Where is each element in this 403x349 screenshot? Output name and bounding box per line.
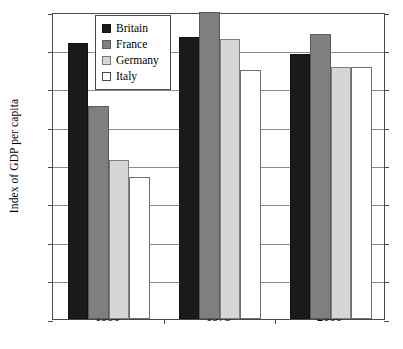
bar-germany-2000	[331, 67, 352, 320]
bar-britain-2000	[290, 54, 311, 319]
legend-item-britain: Britain	[102, 20, 165, 36]
x-group-separator	[164, 319, 165, 324]
bar-italy-2000	[351, 67, 372, 320]
y-tick-mark	[48, 52, 53, 53]
legend-item-germany: Germany	[102, 52, 165, 68]
y-tick-mark-right	[384, 52, 389, 53]
bar-germany-1973	[220, 39, 241, 319]
bar-italy-1973	[240, 70, 261, 319]
y-tick-mark	[48, 321, 53, 322]
chart-legend: Britain France Germany Italy	[95, 15, 171, 90]
y-tick-mark	[48, 167, 53, 168]
y-tick-mark	[48, 129, 53, 130]
legend-swatch-france	[102, 40, 111, 49]
legend-swatch-germany	[102, 56, 111, 65]
y-tick-mark-right	[384, 205, 389, 206]
bar-italy-1950	[129, 177, 150, 319]
bar-france-1973	[199, 12, 220, 319]
y-tick-mark-right	[384, 167, 389, 168]
y-tick-mark	[48, 244, 53, 245]
y-tick-mark-right	[384, 129, 389, 130]
legend-swatch-italy	[102, 72, 111, 81]
bar-france-1950	[88, 106, 109, 319]
y-tick-mark	[48, 282, 53, 283]
y-tick-mark	[48, 14, 53, 15]
y-tick-mark-right	[384, 282, 389, 283]
bar-britain-1950	[68, 43, 89, 319]
legend-swatch-britain	[102, 24, 111, 33]
bar-chart: Index of GDP per capita 0102030405060708…	[0, 0, 403, 349]
legend-item-italy: Italy	[102, 68, 165, 84]
y-tick-mark-right	[384, 321, 389, 322]
legend-label-germany: Germany	[116, 54, 159, 66]
y-tick-mark-right	[384, 244, 389, 245]
bar-france-2000	[310, 34, 331, 319]
y-tick-mark	[48, 205, 53, 206]
legend-label-britain: Britain	[116, 22, 148, 34]
y-tick-mark-right	[384, 14, 389, 15]
y-axis-title: Index of GDP per capita	[8, 56, 20, 256]
bar-germany-1950	[109, 160, 130, 319]
x-group-separator	[275, 319, 276, 324]
legend-label-france: France	[116, 38, 147, 50]
y-tick-mark-right	[384, 90, 389, 91]
legend-item-france: France	[102, 36, 165, 52]
y-tick-mark	[48, 90, 53, 91]
legend-label-italy: Italy	[116, 70, 137, 82]
bar-britain-1973	[179, 37, 200, 319]
